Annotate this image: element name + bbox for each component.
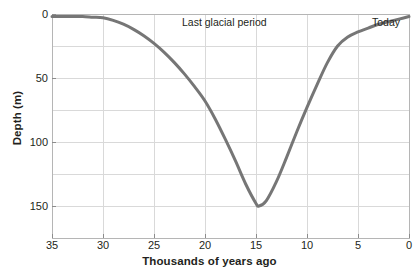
x-tick-label: 0 <box>389 240 419 251</box>
sea-level-chart: 0 50 100 150 35 30 25 20 15 10 5 0 Depth… <box>0 0 419 273</box>
x-axis-title: Thousands of years ago <box>0 255 419 267</box>
x-tick-label: 15 <box>236 240 276 251</box>
x-tick-label: 20 <box>185 240 225 251</box>
y-axis-title: Depth (m) <box>11 68 23 168</box>
x-tick-label: 5 <box>338 240 378 251</box>
y-tick-label: 150 <box>8 201 48 212</box>
x-tick-label: 25 <box>134 240 174 251</box>
x-tick-label: 35 <box>32 240 72 251</box>
y-tick-label: 0 <box>8 9 48 20</box>
annotation-today: Today <box>372 17 400 28</box>
annotation-last-glacial-period: Last glacial period <box>182 17 267 28</box>
x-tick-label: 10 <box>287 240 327 251</box>
plot-background <box>52 14 409 238</box>
y-tick-labels: 0 50 100 150 <box>0 0 48 273</box>
x-tick-label: 30 <box>83 240 123 251</box>
chart-canvas <box>0 0 419 273</box>
